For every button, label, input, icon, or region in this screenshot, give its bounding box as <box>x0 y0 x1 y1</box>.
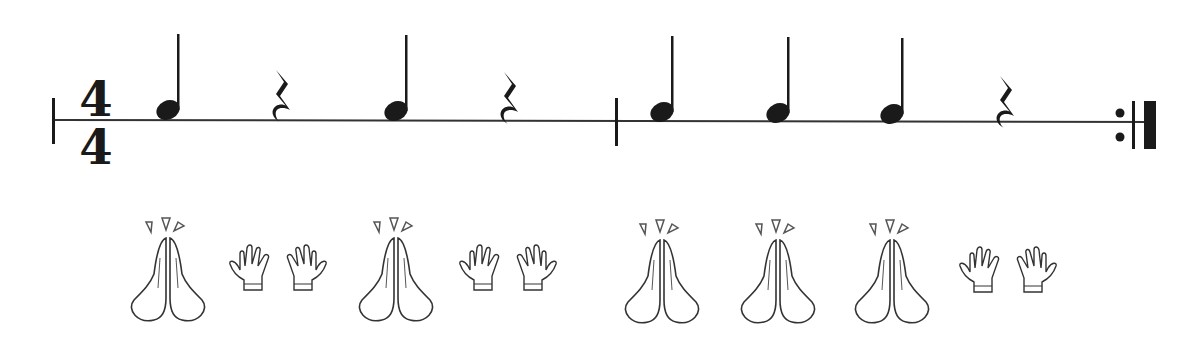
quarter-note-icon <box>647 36 677 126</box>
quarter-note-icon <box>153 34 183 124</box>
start-barline <box>52 98 55 144</box>
clap-hands-icon <box>625 220 698 323</box>
rhythm-diagram: 4 4 <box>0 0 1196 357</box>
open-hands-icon <box>230 245 326 290</box>
open-hands-icon <box>460 245 556 290</box>
quarter-note-icon <box>877 38 907 128</box>
clap-hands-icon <box>359 218 432 321</box>
quarter-note-icon <box>381 35 411 125</box>
clap-hands-icon <box>741 220 814 323</box>
clap-hands-icon <box>131 218 204 321</box>
quarter-note-icon <box>763 37 793 127</box>
quarter-rest-icon <box>273 70 290 122</box>
repeat-dot-icon <box>1116 133 1125 142</box>
staff-line <box>54 120 1156 122</box>
time-signature-bottom: 4 <box>79 119 112 175</box>
measure-barline <box>615 98 618 146</box>
end-thin-barline <box>1132 101 1135 149</box>
quarter-rest-icon <box>997 76 1014 128</box>
end-thick-barline <box>1144 101 1156 149</box>
clap-hands-icon <box>855 220 928 323</box>
open-hands-icon <box>960 247 1056 292</box>
quarter-rest-icon <box>501 72 518 124</box>
repeat-dot-icon <box>1116 109 1125 118</box>
